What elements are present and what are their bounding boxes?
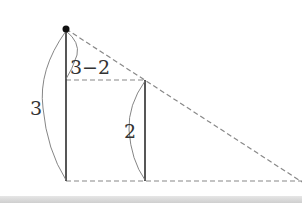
bottom-gray-band: [0, 196, 302, 203]
apex-point: [63, 26, 70, 33]
hypotenuse-dashed-line: [66, 29, 302, 182]
difference-label: 3−2: [70, 56, 110, 78]
tall-height-arc: [42, 31, 66, 180]
tall-height-label: 3: [30, 97, 42, 119]
short-height-label: 2: [124, 120, 136, 142]
similar-triangles-diagram: 3 3−2 2: [0, 0, 302, 203]
